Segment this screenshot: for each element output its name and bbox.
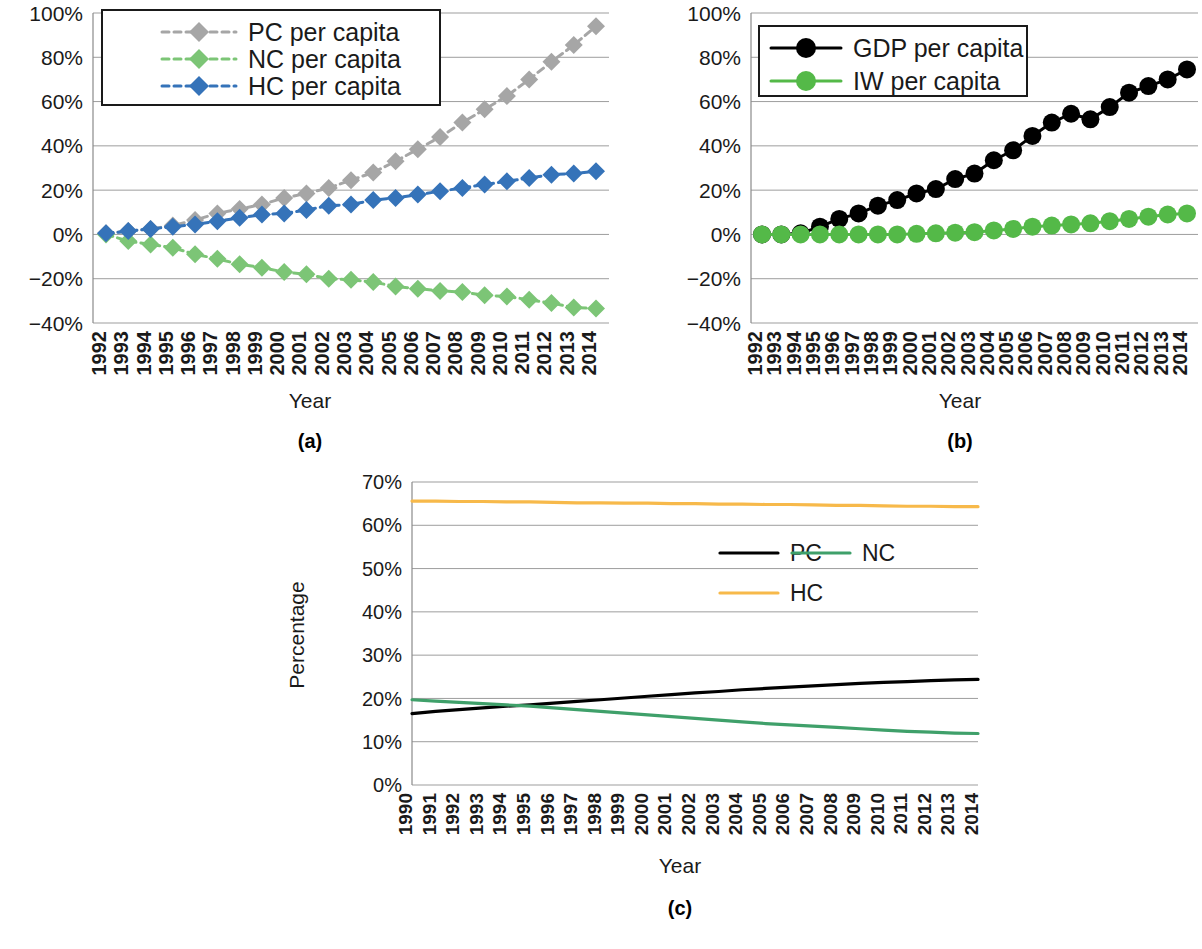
xtick-label: 1992 <box>442 793 463 835</box>
series-marker <box>1120 210 1138 228</box>
legend-label: GDP per capita <box>853 34 1024 62</box>
series-marker <box>453 283 471 301</box>
chart-c-svg: 0%10%20%30%40%50%60%70% 1990199119921993… <box>200 455 1000 949</box>
series-marker <box>297 265 315 283</box>
series-marker <box>342 271 360 289</box>
chart-panel-a: −40%−20%0%20%40%60%80%100% 1992199319941… <box>0 0 620 455</box>
xtick-label: 1994 <box>133 330 155 375</box>
series-marker <box>409 280 427 298</box>
series-marker <box>387 277 405 295</box>
series-marker <box>275 204 293 222</box>
chart-c-legend: PCHCNC <box>720 540 895 606</box>
xtick-label: 2010 <box>867 793 888 835</box>
xtick-label: 2007 <box>422 331 444 376</box>
series-marker <box>1062 105 1080 123</box>
series-marker <box>231 255 249 273</box>
series-line <box>412 679 978 713</box>
ytick-label: 60% <box>362 514 402 536</box>
series-marker <box>811 225 829 243</box>
series-line <box>412 700 978 734</box>
series-marker <box>966 165 984 183</box>
series-marker <box>476 286 494 304</box>
series-line <box>412 501 978 507</box>
series-marker <box>565 299 583 317</box>
xtick-label: 1992 <box>88 331 110 376</box>
series-marker <box>850 225 868 243</box>
series-marker <box>542 166 560 184</box>
ytick-label: 30% <box>362 644 402 666</box>
xtick-label: 1995 <box>155 331 177 376</box>
series-marker <box>1023 127 1041 145</box>
chart-panel-c: 0%10%20%30%40%50%60%70% 1990199119921993… <box>200 455 1000 949</box>
series-marker <box>1139 208 1157 226</box>
xtick-label: 2008 <box>820 793 841 835</box>
ytick-label: 0% <box>53 223 83 246</box>
chart-a-legend: PC per capitaNC per capitaHC per capita <box>102 10 440 105</box>
xtick-label: 1990 <box>395 793 416 835</box>
chart-c-yaxis-title: Percentage <box>285 581 308 688</box>
series-marker <box>869 197 887 215</box>
legend-swatch-marker <box>796 38 816 58</box>
series-marker <box>297 184 315 202</box>
series-marker <box>364 163 382 181</box>
series-marker <box>1101 212 1119 230</box>
series-marker <box>1139 77 1157 95</box>
series-marker <box>431 182 449 200</box>
series-marker <box>1081 214 1099 232</box>
chart-a-yaxis-labels: −40%−20%0%20%40%60%80%100% <box>29 2 83 335</box>
series-marker <box>520 291 538 309</box>
series-marker <box>772 225 790 243</box>
series-marker <box>908 184 926 202</box>
ytick-label: −40% <box>29 312 83 335</box>
series-marker <box>498 287 516 305</box>
series-marker <box>1004 141 1022 159</box>
series-marker <box>542 294 560 312</box>
ytick-label: 60% <box>41 90 83 113</box>
legend-label: IW per capita <box>853 67 1000 95</box>
xtick-label: 2010 <box>489 331 511 376</box>
xtick-label: 1997 <box>199 331 221 376</box>
ytick-label: 0% <box>711 223 741 246</box>
series-marker <box>1101 98 1119 116</box>
series-marker <box>320 179 338 197</box>
series-marker <box>1023 218 1041 236</box>
xtick-label: 2014 <box>1169 330 1191 375</box>
xtick-label: 2009 <box>843 793 864 835</box>
series-marker <box>985 221 1003 239</box>
series-marker <box>253 259 271 277</box>
ytick-label: 80% <box>699 46 741 69</box>
xtick-label: 2005 <box>378 331 400 376</box>
ytick-label: 0% <box>373 774 402 796</box>
xtick-label: 1997 <box>560 793 581 835</box>
ytick-label: 100% <box>29 2 83 25</box>
xtick-label: 2003 <box>702 793 723 835</box>
chart-a-xaxis-labels: 1992199319941995199619971998199920002001… <box>88 330 600 375</box>
ytick-label: 20% <box>362 688 402 710</box>
series-marker <box>966 223 984 241</box>
series-marker <box>908 225 926 243</box>
series-marker <box>520 169 538 187</box>
series-marker <box>320 197 338 215</box>
series-marker <box>830 225 848 243</box>
chart-b-svg: −40%−20%0%20%40%60%80%100% 1992199319941… <box>620 0 1202 455</box>
series-marker <box>927 224 945 242</box>
xtick-label: 2011 <box>511 331 533 374</box>
xtick-label: 1994 <box>489 793 510 836</box>
series-marker <box>164 239 182 257</box>
series-marker <box>792 225 810 243</box>
chart-b-legend: GDP per capitaIW per capita <box>759 26 1027 96</box>
series-marker <box>186 245 204 263</box>
series-marker <box>498 172 516 190</box>
chart-c-gridlines <box>412 482 978 785</box>
ytick-label: −40% <box>687 312 741 335</box>
ytick-label: 70% <box>362 471 402 493</box>
series-marker <box>453 179 471 197</box>
xtick-label: 2004 <box>355 330 377 375</box>
series-marker <box>1159 206 1177 224</box>
ytick-label: 40% <box>699 134 741 157</box>
xtick-label: 2001 <box>288 331 310 376</box>
chart-a-svg: −40%−20%0%20%40%60%80%100% 1992199319941… <box>0 0 620 455</box>
series-marker <box>927 180 945 198</box>
series-marker <box>320 270 338 288</box>
series-marker <box>850 204 868 222</box>
